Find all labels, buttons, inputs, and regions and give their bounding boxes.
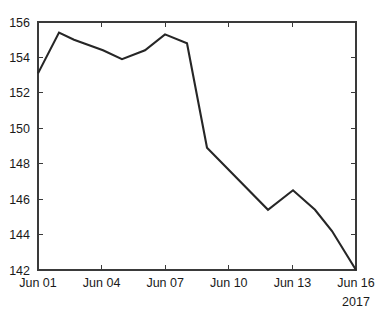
x-tick-label: Jun 07 bbox=[146, 276, 184, 290]
y-tick-label: 148 bbox=[9, 157, 30, 171]
y-tick-label: 156 bbox=[9, 16, 30, 30]
y-axis-ticks bbox=[38, 22, 356, 270]
x-tick-label: Jun 04 bbox=[83, 276, 121, 290]
y-tick-label: 144 bbox=[9, 228, 30, 242]
year-label: 2017 bbox=[342, 295, 370, 309]
data-series-line bbox=[38, 33, 356, 270]
chart-canvas: 142144146148150152154156 Jun 01Jun 04Jun… bbox=[0, 0, 380, 318]
axis-frame bbox=[38, 22, 356, 270]
x-tick-label: Jun 01 bbox=[19, 276, 57, 290]
x-axis-tick-labels: Jun 01Jun 04Jun 07Jun 10Jun 13Jun 16 bbox=[19, 276, 375, 290]
y-tick-label: 146 bbox=[9, 193, 30, 207]
x-tick-label: Jun 13 bbox=[274, 276, 312, 290]
y-axis-tick-labels: 142144146148150152154156 bbox=[9, 16, 30, 278]
x-axis-ticks bbox=[38, 22, 356, 270]
y-tick-label: 150 bbox=[9, 122, 30, 136]
y-tick-label: 152 bbox=[9, 86, 30, 100]
line-chart: 142144146148150152154156 Jun 01Jun 04Jun… bbox=[0, 0, 380, 318]
plot-frame bbox=[38, 22, 356, 270]
x-tick-label: Jun 16 bbox=[337, 276, 375, 290]
y-tick-label: 154 bbox=[9, 51, 30, 65]
x-tick-label: Jun 10 bbox=[210, 276, 248, 290]
